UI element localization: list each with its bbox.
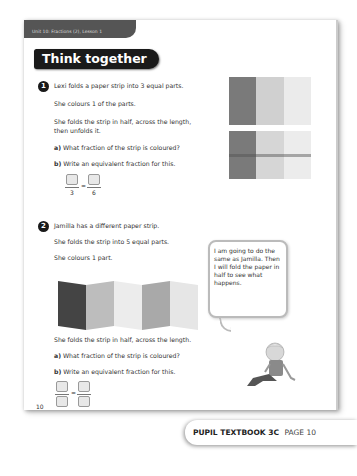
q2-part-a: a) What fraction of the strip is coloure… [54, 352, 180, 359]
question-1-number: 1 [38, 81, 49, 92]
q2-line-3: She colours 1 part. [54, 254, 113, 261]
q1-part-a: a) What fraction of the strip is coloure… [54, 144, 180, 151]
q2-part-b-text: Write an equivalent fraction for this. [63, 368, 175, 375]
footer-book-title: PUPIL TEXTBOOK 3C [193, 428, 279, 437]
footer-book-tab: PUPIL TEXTBOOK 3C PAGE 10 [185, 420, 357, 445]
q1-line-1: Lexi folds a paper strip into 3 equal pa… [54, 82, 183, 89]
q2-numerator-box-right[interactable] [78, 381, 90, 392]
child-character-illustration [243, 340, 303, 395]
q1-part-a-text: What fraction of the strip is coloured? [63, 144, 180, 151]
q1-paper-strip-folded [229, 131, 311, 179]
q2-part-b: b) Write an equivalent fraction for this… [54, 368, 175, 375]
q2-line-1: Jamilla has a different paper strip. [54, 222, 159, 229]
q1-line-4: then unfolds it. [54, 127, 101, 134]
q2-fraction-bar-right [77, 394, 91, 395]
q1-equals-sign: = [81, 182, 86, 189]
question-2-number: 2 [38, 221, 49, 232]
q2-denominator-box-right[interactable] [78, 396, 90, 407]
q2-numerator-box-left[interactable] [56, 381, 68, 392]
q2-part-a-label: a) [54, 352, 61, 359]
q1-part-a-label: a) [54, 144, 61, 151]
q1-line-3: She folds the strip in half, across the … [54, 118, 191, 125]
strip-segment-coloured [229, 77, 256, 125]
character-shirt [269, 360, 283, 376]
unit-label: Unit 10: Fractions (2), Lesson 1 [24, 20, 136, 38]
q2-equals-sign: = [71, 389, 76, 396]
strip-panel [114, 281, 142, 330]
q1-numerator-box-left[interactable] [66, 174, 78, 185]
q1-part-b-label: b) [54, 160, 61, 167]
q2-part-a-text: What fraction of the strip is coloured? [63, 352, 180, 359]
q1-numerator-box-right[interactable] [88, 174, 100, 185]
page-number: 10 [36, 403, 44, 410]
character-arm [283, 364, 295, 380]
q1-line-2: She colours 1 of the parts. [54, 100, 136, 107]
q1-fraction-bar-left [65, 187, 79, 188]
q1-paper-strip [229, 77, 311, 125]
q2-part-b-label: b) [54, 368, 61, 375]
q1-part-b-text: Write an equivalent fraction for this. [63, 160, 175, 167]
q2-folded-paper-strip [58, 278, 198, 330]
q2-line-2: She folds the strip into 5 equal parts. [54, 238, 169, 245]
strip-panel [170, 281, 198, 330]
q2-line-4: She folds the strip in half, across the … [54, 336, 191, 343]
fold-crease [229, 154, 311, 157]
q1-denominator-right: 6 [87, 189, 101, 196]
section-title: Think together [34, 49, 159, 69]
q1-part-b: b) Write an equivalent fraction for this… [54, 160, 175, 167]
speech-bubble: I am going to do the same as Jamilla. Th… [208, 240, 288, 318]
q1-denominator-left: 3 [65, 189, 79, 196]
strip-panel-coloured [58, 281, 86, 330]
q1-fraction-bar-right [87, 187, 101, 188]
strip-segment [284, 77, 311, 125]
strip-panel [142, 281, 170, 330]
strip-segment [256, 77, 283, 125]
q2-fraction-bar-left [55, 394, 69, 395]
footer-page-label: PAGE 10 [284, 428, 316, 437]
q2-denominator-box-left[interactable] [56, 396, 68, 407]
strip-panel [86, 281, 114, 330]
